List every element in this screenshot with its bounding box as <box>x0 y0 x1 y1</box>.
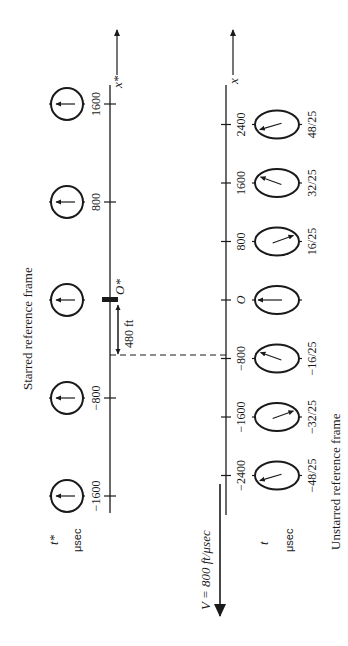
unstarred-axis-label: x <box>226 78 241 85</box>
starred-origin-marker <box>102 297 118 302</box>
relativity-clock-diagram: x* 1600800−800−1600 O* 480 ft Starred re… <box>0 0 348 646</box>
starred-tick-label: −1600 <box>89 481 103 512</box>
starred-clock <box>49 186 85 218</box>
unstarred-tick-label: O <box>234 295 248 304</box>
unstarred-clock: 48/25 <box>252 111 319 139</box>
unstarred-time-label: t <box>256 541 271 545</box>
clock-time-label: −32/25 <box>305 400 319 434</box>
unstarred-clock: −32/25 <box>252 400 319 434</box>
unstarred-clock: −16/25 <box>252 341 319 375</box>
starred-time-label: t* <box>46 534 61 545</box>
unstarred-frame: x 24001600800O−800−1600−2400 48/2532/251… <box>198 30 343 616</box>
clock-time-label: 48/25 <box>305 111 319 138</box>
starred-time-unit: μsec <box>71 528 83 552</box>
clock-time-label: −16/25 <box>305 341 319 375</box>
starred-axis-label: x* <box>110 75 125 89</box>
starred-clock <box>49 88 85 120</box>
unstarred-frame-title: Unstarred reference frame <box>328 413 343 550</box>
unstarred-clock: −48/25 <box>252 458 319 492</box>
clock-hand <box>273 236 294 244</box>
starred-clock <box>49 382 85 414</box>
clock-hand <box>273 411 294 419</box>
clock-time-label: 32/25 <box>305 169 319 196</box>
clock-hand <box>261 177 282 185</box>
starred-clock <box>49 480 85 512</box>
unstarred-tick-label: −2400 <box>234 460 248 491</box>
clock-hand <box>261 353 282 361</box>
unstarred-clock: 16/25 <box>252 228 319 256</box>
unstarred-tick-label: −1600 <box>234 402 248 433</box>
starred-clock <box>49 284 85 316</box>
velocity-label: V = 800 ft/μsec <box>198 530 213 610</box>
unstarred-clock: 32/25 <box>252 169 319 197</box>
starred-tick-label: 800 <box>89 193 103 211</box>
offset-label: 480 ft <box>122 319 136 348</box>
unstarred-time-unit: μsec <box>283 528 295 552</box>
clock-hand <box>260 123 282 129</box>
starred-tick-label: −800 <box>89 386 103 411</box>
unstarred-tick-label: −800 <box>234 346 248 371</box>
unstarred-clock <box>252 286 302 314</box>
clock-hand <box>260 474 282 480</box>
clock-time-label: 16/25 <box>305 228 319 255</box>
unstarred-tick-label: 2400 <box>234 113 248 137</box>
starred-frame-title: Starred reference frame <box>20 267 35 390</box>
starred-origin-label: O* <box>112 279 127 295</box>
unstarred-tick-label: 800 <box>234 233 248 251</box>
clock-time-label: −48/25 <box>305 458 319 492</box>
starred-tick-label: 1600 <box>89 92 103 116</box>
unstarred-tick-label: 1600 <box>234 171 248 195</box>
starred-frame: x* 1600800−800−1600 O* 480 ft Starred re… <box>20 30 136 552</box>
